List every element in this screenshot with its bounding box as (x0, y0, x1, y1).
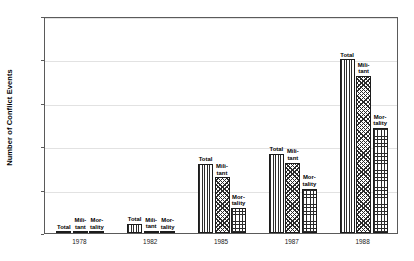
bar-chart: Number of Conflict Events 05001000150020… (0, 0, 414, 261)
bar-label-1988-total: Total (334, 52, 360, 58)
bar-group-1988: TotalMili- tantMor- tality (340, 18, 388, 233)
y-axis-title-text: Number of Conflict Events (5, 69, 14, 166)
plot-area: TotalMili- tantMor- talityTotalMili- tan… (44, 17, 398, 234)
bar-1985-mortality (231, 208, 246, 233)
bar-1978-total (56, 231, 71, 233)
x-axis-tick-labels: 19781982198519871988 (44, 238, 398, 252)
bar-1982-mortality (160, 231, 175, 233)
bar-label-1987-mortality: Mor- tality (296, 174, 322, 187)
bar-label-1988-mortality: Mor- tality (367, 114, 393, 127)
bar-label-1982-mortality: Mor- tality (155, 217, 181, 230)
bar-1988-militant (356, 76, 371, 233)
bars-layer: TotalMili- tantMor- talityTotalMili- tan… (45, 18, 397, 233)
bar-1978-militant (73, 231, 88, 233)
bar-label-1978-mortality: Mor- tality (84, 217, 110, 230)
x-axis-tick-label-1982: 1982 (130, 238, 170, 245)
bar-label-1985-mortality: Mor- tality (226, 194, 252, 207)
bar-group-1985: TotalMili- tantMor- tality (198, 18, 246, 233)
bar-1988-total (340, 59, 355, 233)
y-axis-title: Number of Conflict Events (2, 0, 16, 234)
bar-1982-militant (144, 231, 159, 233)
y-axis-tick-mark (41, 234, 44, 235)
bar-label-1988-militant: Mili- tant (351, 62, 377, 75)
bar-label-1985-total: Total (193, 156, 219, 162)
x-axis-tick-label-1978: 1978 (59, 238, 99, 245)
x-axis-tick-label-1988: 1988 (343, 238, 383, 245)
bar-group-1987: TotalMili- tantMor- tality (269, 18, 317, 233)
bar-1978-mortality (89, 231, 104, 233)
bar-1987-mortality (302, 189, 317, 233)
x-axis-tick-label-1987: 1987 (272, 238, 312, 245)
bar-1987-militant (285, 163, 300, 233)
bar-group-1982: TotalMili- tantMor- tality (127, 18, 175, 233)
bar-1988-mortality (373, 128, 388, 233)
bar-group-1978: TotalMili- tantMor- tality (56, 18, 104, 233)
bar-label-1985-militant: Mili- tant (209, 163, 235, 176)
bar-1987-total (269, 154, 284, 233)
x-axis-tick-label-1985: 1985 (201, 238, 241, 245)
bar-label-1987-militant: Mili- tant (280, 148, 306, 161)
